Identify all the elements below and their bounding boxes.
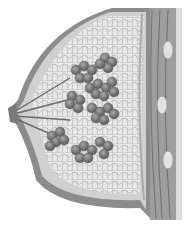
breast-anatomy-illustration [0,0,191,226]
pectoral-muscle [147,8,182,220]
